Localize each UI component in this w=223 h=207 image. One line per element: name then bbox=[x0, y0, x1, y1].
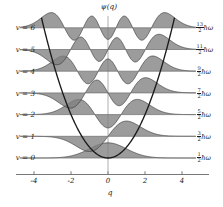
energy-label-v2: 5 2 ħω bbox=[197, 109, 211, 121]
x-tick-label--4: -4 bbox=[22, 177, 46, 185]
level-label-v0: v = 0 bbox=[1, 153, 35, 162]
level-label-v4: v = 4 bbox=[1, 67, 35, 76]
x-tick-label-2: 2 bbox=[133, 177, 157, 185]
energy-unit-v2: ħω bbox=[201, 111, 211, 119]
energy-unit-v4: ħω bbox=[201, 68, 211, 76]
level-label-v1: v = 1 bbox=[1, 132, 35, 141]
energy-unit-v6: ħω bbox=[204, 24, 214, 32]
x-tick-label-4: 4 bbox=[170, 177, 194, 185]
energy-label-v0: 1 2 ħω bbox=[197, 152, 211, 164]
level-label-v2: v = 2 bbox=[1, 110, 35, 119]
energy-label-v1: 3 2 ħω bbox=[197, 131, 211, 143]
level-label-v3: v = 3 bbox=[1, 89, 35, 98]
x-axis-title: q bbox=[95, 188, 125, 197]
energy-fraction-v6: 13 2 bbox=[196, 22, 204, 34]
x-tick-label--2: -2 bbox=[59, 177, 83, 185]
harmonic-oscillator-figure: ψ(q) q -4 -2 0 2 4 v = 6 v = 5 v = 4 v =… bbox=[0, 0, 223, 207]
energy-label-v5: 11 2 ħω bbox=[196, 44, 213, 56]
wavefunction-0 bbox=[20, 143, 196, 158]
energy-unit-v1: ħω bbox=[201, 133, 211, 141]
energy-label-v4: 9 2 ħω bbox=[197, 66, 211, 78]
energy-label-v3: 7 2 ħω bbox=[197, 88, 211, 100]
wavefunction-fill-0 bbox=[20, 143, 196, 158]
energy-fraction-v5: 11 2 bbox=[196, 44, 204, 56]
y-axis-title: ψ(q) bbox=[91, 2, 127, 11]
x-tick-label-0: 0 bbox=[96, 177, 120, 185]
energy-unit-v0: ħω bbox=[201, 154, 211, 162]
level-label-v6: v = 6 bbox=[1, 23, 35, 32]
energy-label-v6: 13 2 ħω bbox=[196, 22, 213, 34]
level-label-v5: v = 5 bbox=[1, 45, 35, 54]
energy-unit-v3: ħω bbox=[201, 90, 211, 98]
energy-unit-v5: ħω bbox=[204, 46, 214, 54]
